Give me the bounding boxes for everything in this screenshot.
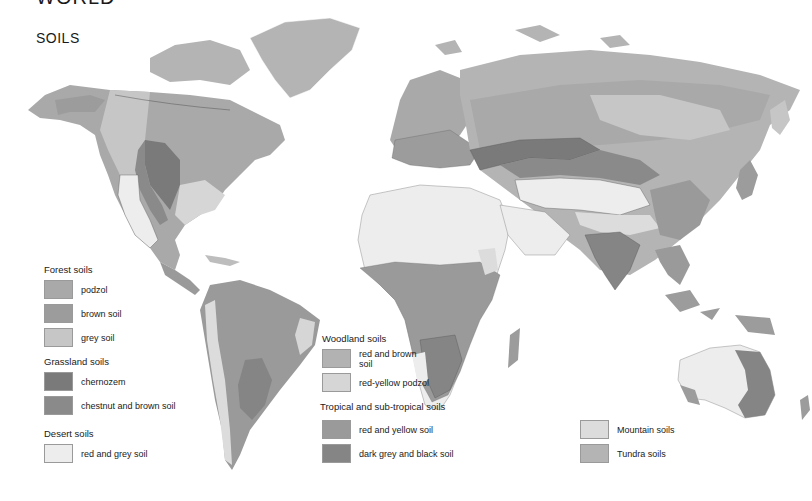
swatch-podzol bbox=[44, 280, 73, 299]
swatch-chestnut-brown bbox=[44, 396, 73, 415]
legend-heading-woodland: Woodland soils bbox=[322, 333, 429, 344]
swatch-tundra bbox=[580, 444, 609, 463]
legend-item-dark-grey-black: dark grey and black soil bbox=[322, 444, 454, 463]
legend-label: red-yellow podzol bbox=[359, 378, 429, 388]
legend-label: dark grey and black soil bbox=[359, 449, 454, 459]
legend-heading-desert: Desert soils bbox=[44, 428, 148, 439]
legend-label: Mountain soils bbox=[617, 425, 675, 435]
madagascar bbox=[508, 328, 520, 368]
swatch-red-yellow-podzol bbox=[322, 373, 351, 392]
legend-item-chernozem: chernozem bbox=[44, 372, 176, 391]
legend-woodland-soils: Woodland soils red and brown soil red-ye… bbox=[322, 333, 429, 397]
legend-forest-soils: Forest soils podzol brown soil grey soil bbox=[44, 264, 122, 352]
legend-other-soils: Mountain soils Tundra soils bbox=[580, 420, 675, 468]
greenland bbox=[250, 18, 360, 98]
legend-label: podzol bbox=[81, 285, 108, 295]
legend-item-red-grey: red and grey soil bbox=[44, 444, 148, 463]
legend-label: Tundra soils bbox=[617, 449, 666, 459]
legend-label: chestnut and brown soil bbox=[81, 401, 176, 411]
legend-label: brown soil bbox=[81, 309, 122, 319]
legend-label: grey soil bbox=[81, 333, 115, 343]
new-zealand bbox=[800, 395, 810, 420]
legend-item-tundra: Tundra soils bbox=[580, 444, 675, 463]
legend-item-grey-soil: grey soil bbox=[44, 328, 122, 347]
legend-desert-soils: Desert soils red and grey soil bbox=[44, 428, 148, 468]
legend-item-red-brown: red and brown soil bbox=[322, 349, 429, 368]
swatch-mountain bbox=[580, 420, 609, 439]
arctic-islands bbox=[150, 40, 250, 85]
legend-tropical-soils: Tropical and sub-tropical soils red and … bbox=[320, 401, 454, 468]
legend-item-mountain: Mountain soils bbox=[580, 420, 675, 439]
swatch-dark-grey-black bbox=[322, 444, 351, 463]
legend-label: red and grey soil bbox=[81, 449, 148, 459]
swatch-red-brown bbox=[322, 349, 351, 368]
legend-label: chernozem bbox=[81, 377, 126, 387]
asia-arctic-islands bbox=[435, 25, 630, 55]
swatch-red-grey bbox=[44, 444, 73, 463]
swatch-grey-soil bbox=[44, 328, 73, 347]
swatch-brown-soil bbox=[44, 304, 73, 323]
legend-heading-tropical: Tropical and sub-tropical soils bbox=[320, 401, 454, 412]
legend-item-brown-soil: brown soil bbox=[44, 304, 122, 323]
legend-heading-grassland: Grassland soils bbox=[44, 356, 176, 367]
legend-heading-forest: Forest soils bbox=[44, 264, 122, 275]
legend-item-red-yellow-podzol: red-yellow podzol bbox=[322, 373, 429, 392]
central-america bbox=[160, 262, 200, 295]
se-asia bbox=[655, 245, 690, 285]
legend-item-red-yellow: red and yellow soil bbox=[322, 420, 454, 439]
caribbean bbox=[205, 255, 240, 266]
legend-item-chestnut-brown: chestnut and brown soil bbox=[44, 396, 176, 415]
swatch-red-yellow bbox=[322, 420, 351, 439]
legend-label: red and yellow soil bbox=[359, 425, 433, 435]
legend-label: red and brown soil bbox=[359, 349, 419, 369]
legend-grassland-soils: Grassland soils chernozem chestnut and b… bbox=[44, 356, 176, 420]
indonesia bbox=[665, 290, 775, 335]
swatch-chernozem bbox=[44, 372, 73, 391]
legend-item-podzol: podzol bbox=[44, 280, 122, 299]
